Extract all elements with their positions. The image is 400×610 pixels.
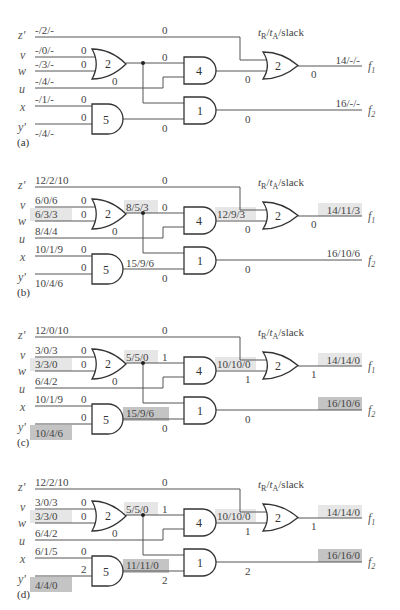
slack-x: 0 (81, 545, 87, 557)
timing-x: 6/1/5 (35, 545, 58, 557)
slack-v: 0 (81, 44, 87, 56)
slack-x: 0 (81, 393, 87, 405)
gate-delay-and1: 1 (197, 404, 203, 418)
output-f1-label: f1 (368, 359, 375, 375)
gate-delay-or-out: 2 (275, 359, 281, 373)
timing-u: 6/4/2 (35, 375, 58, 387)
timing-w: 6/3/3 (35, 208, 58, 220)
slack-z: 0 (162, 24, 168, 36)
slack-u: 0 (112, 225, 118, 237)
timing-w: -/3/- (35, 58, 54, 70)
wire (35, 77, 184, 88)
panel-label: (d) (17, 588, 30, 601)
gate-delay-or-out: 2 (275, 511, 281, 525)
timing-u: -/4/- (35, 75, 54, 87)
timing-v: 3/0/3 (35, 344, 58, 356)
slack-and1: 2 (245, 565, 251, 577)
signal-z-label: z' (17, 328, 26, 342)
timing-z: 12/2/10 (35, 174, 69, 186)
circuit-panel: z'vwuxy'2541212/2/106/0/66/3/38/4/410/1/… (17, 174, 375, 299)
column-header: tR/tA/slack (258, 176, 304, 191)
slack-and5: 0 (162, 122, 168, 134)
gate-delay-and5: 5 (103, 565, 109, 579)
slack-y: 0 (81, 411, 87, 423)
timing-u: 8/4/4 (35, 225, 58, 237)
gate-delay-and4: 4 (196, 214, 202, 228)
slack-and5: 0 (162, 272, 168, 284)
signal-u-label: u (19, 382, 25, 396)
timing-f1: 14/11/3 (327, 204, 361, 216)
slack-u: 0 (112, 75, 118, 87)
column-header: tR/tA/slack (258, 26, 304, 41)
slack-and4: 0 (245, 223, 251, 235)
slack-z: 0 (162, 324, 168, 336)
timing-x: -/1/- (35, 93, 54, 105)
timing-and5-out: 11/11/0 (126, 559, 159, 571)
slack-out-or: 1 (311, 368, 317, 380)
output-f2-label: f2 (368, 253, 375, 269)
timing-y: 4/4/0 (35, 579, 58, 591)
signal-u-label: u (19, 534, 25, 548)
slack-and1: 0 (245, 413, 251, 425)
signal-v-label: v (20, 48, 26, 62)
column-header: tR/tA/slack (258, 478, 304, 493)
gate-delay-and1: 1 (197, 254, 203, 268)
timing-or-out: 5/5/0 (126, 351, 149, 363)
signal-w-label: w (18, 364, 26, 378)
signal-u-label: u (19, 232, 25, 246)
signal-v-label: v (20, 198, 26, 212)
timing-f2: 16/10/6 (326, 247, 360, 259)
slack-and5: 0 (162, 422, 168, 434)
gate-delay-and1: 1 (197, 104, 203, 118)
slack-out-or: 0 (311, 218, 317, 230)
signal-x-label: x (19, 552, 26, 566)
gate-delay-or-in: 2 (105, 207, 111, 221)
gate-delay-or-in: 2 (105, 509, 111, 523)
junction-dot (141, 61, 145, 65)
circuit-panel: z'vwuxy'2541212/0/103/0/33/3/06/4/210/1/… (17, 324, 375, 449)
signal-w-label: w (18, 64, 26, 78)
slack-and4: 0 (245, 73, 251, 85)
gate-delay-or-out: 2 (275, 59, 281, 73)
timing-z: 12/0/10 (35, 324, 69, 336)
panel-label: (a) (17, 136, 30, 149)
output-f1-label: f1 (368, 209, 375, 225)
slack-y: 0 (81, 111, 87, 123)
signal-u-label: u (19, 82, 25, 96)
timing-f1: 14/14/0 (326, 354, 360, 366)
timing-and4-out: 12/9/3 (217, 208, 246, 220)
gate-delay-and4: 4 (196, 364, 202, 378)
timing-v: -/0/- (35, 44, 54, 56)
slack-v: 0 (81, 194, 87, 206)
slack-u: 0 (112, 375, 118, 387)
output-f2-label: f2 (368, 555, 375, 571)
signal-z-label: z' (17, 28, 26, 42)
timing-and5-out: 15/9/6 (126, 407, 155, 419)
timing-f2: 16/16/0 (326, 549, 360, 561)
signal-v-label: v (20, 348, 26, 362)
signal-w-label: w (18, 214, 26, 228)
slack-w: 0 (81, 510, 87, 522)
timing-f1: 14/14/0 (326, 506, 360, 518)
slack-and1: 0 (245, 113, 251, 125)
output-f2-label: f2 (368, 103, 375, 119)
timing-f2: 16/-/- (336, 97, 361, 109)
signal-w-label: w (18, 516, 26, 530)
signal-z-label: z' (17, 480, 26, 494)
slack-w: 0 (81, 358, 87, 370)
signal-x-label: x (19, 100, 26, 114)
timing-and5-out: 15/9/6 (126, 257, 155, 269)
gate-delay-and4: 4 (196, 64, 202, 78)
signal-v-label: v (20, 500, 26, 514)
timing-y: 10/4/6 (35, 277, 64, 289)
timing-y: 10/4/6 (35, 427, 64, 439)
signal-x-label: x (19, 250, 26, 264)
slack-v: 0 (81, 344, 87, 356)
timing-and4-out: 10/10/0 (217, 510, 251, 522)
output-f1-label: f1 (368, 59, 375, 75)
timing-x: 10/1/9 (35, 243, 64, 255)
slack-z: 0 (162, 476, 168, 488)
gate-delay-and5: 5 (103, 263, 109, 277)
signal-y-label: y' (17, 572, 26, 586)
gate-delay-and5: 5 (103, 413, 109, 427)
